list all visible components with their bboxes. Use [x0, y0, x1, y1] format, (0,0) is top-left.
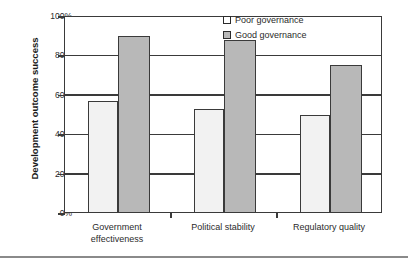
- bar-good-political-stability: [224, 40, 256, 213]
- bar-poor-political-stability: [194, 109, 224, 213]
- x-label-government-effectiveness: Government effectiveness: [64, 222, 170, 245]
- bar-good-government-effectiveness: [118, 36, 150, 213]
- bar-group-political-stability: [170, 16, 276, 213]
- bottom-divider: [0, 256, 408, 258]
- bar-good-regulatory-quality: [330, 65, 362, 213]
- bar-poor-regulatory-quality: [300, 115, 330, 214]
- legend-swatch-icon-good: [223, 31, 231, 39]
- x-label-line-1: Regulatory quality: [276, 222, 382, 234]
- x-tick-mark-2: [276, 213, 278, 218]
- bar-poor-government-effectiveness: [88, 101, 118, 213]
- x-tick-mark-1: [170, 213, 172, 218]
- legend-swatch-icon-poor: [223, 16, 231, 24]
- bar-group-government-effectiveness: [64, 16, 170, 213]
- x-label-political-stability: Political stability: [170, 222, 276, 234]
- x-label-line-1: Political stability: [170, 222, 276, 234]
- chart-figure: Development outcome success 100% 80% 60%…: [0, 0, 408, 264]
- bars-layer: [64, 16, 382, 213]
- legend-label-good: Good governance: [235, 30, 307, 40]
- x-label-regulatory-quality: Regulatory quality: [276, 222, 382, 234]
- y-tick-mark-0: [58, 213, 65, 215]
- x-label-line-1: Government: [64, 222, 170, 234]
- x-label-line-2: effectiveness: [64, 234, 170, 246]
- bar-group-regulatory-quality: [276, 16, 382, 213]
- legend-label-poor: Poor governance: [235, 15, 304, 25]
